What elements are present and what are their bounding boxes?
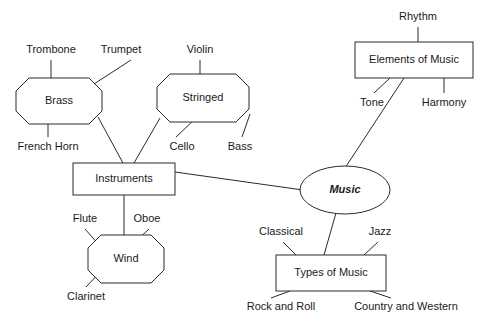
concept-map-diagram: BrassStringedInstrumentsWindMusicElement…: [0, 0, 487, 329]
leaf-label-trombone: Trombone: [26, 43, 76, 55]
node-label-music: Music: [329, 183, 360, 195]
leaf-label-harmony: Harmony: [422, 96, 467, 108]
node-layer: BrassStringedInstrumentsWindMusicElement…: [16, 42, 473, 291]
leaf-label-bass: Bass: [228, 140, 253, 152]
node-instruments[interactable]: Instruments: [73, 163, 175, 195]
leaf-label-cello: Cello: [169, 140, 194, 152]
node-label-types-of-music: Types of Music: [294, 266, 368, 278]
edge-trumpet-brass: [94, 60, 131, 84]
edge-elements-music: [345, 78, 404, 168]
edge-jazz-types: [364, 242, 378, 255]
node-label-instruments: Instruments: [95, 172, 153, 184]
leaf-label-country-and-western: Country and Western: [354, 300, 458, 312]
node-label-elements-of-music: Elements of Music: [369, 53, 459, 65]
edge-classical-types: [283, 242, 296, 255]
leaf-label-rock-and-roll: Rock and Roll: [247, 300, 315, 312]
edge-music-types: [324, 213, 336, 255]
leaf-label-tone: Tone: [360, 96, 384, 108]
node-wind[interactable]: Wind: [88, 235, 164, 283]
edge-tone-elements: [374, 78, 390, 93]
edge-brass-instruments: [98, 117, 123, 163]
edge-bass-stringed: [242, 114, 250, 137]
node-label-brass: Brass: [45, 94, 74, 106]
edge-instruments-music: [175, 172, 303, 190]
node-label-wind: Wind: [113, 252, 138, 264]
leaf-label-flute: Flute: [73, 212, 97, 224]
leaf-label-rhythm: Rhythm: [399, 10, 437, 22]
node-music[interactable]: Music: [300, 166, 390, 214]
edge-types-rockandroll: [271, 291, 290, 298]
edge-stringed-instruments: [134, 118, 160, 163]
node-elements-of-music[interactable]: Elements of Music: [355, 42, 473, 78]
leaf-label-french-horn: French Horn: [17, 140, 78, 152]
node-label-stringed: Stringed: [183, 91, 224, 103]
leaf-label-oboe: Oboe: [134, 212, 161, 224]
leaf-label-clarinet: Clarinet: [67, 290, 105, 302]
leaf-label-violin: Violin: [187, 43, 214, 55]
leaf-label-classical: Classical: [259, 225, 303, 237]
leaf-label-jazz: Jazz: [369, 225, 392, 237]
leaf-label-trumpet: Trumpet: [101, 43, 142, 55]
node-types-of-music[interactable]: Types of Music: [276, 255, 386, 291]
node-brass[interactable]: Brass: [16, 78, 102, 124]
edge-types-countryandwestern: [370, 291, 391, 298]
node-stringed[interactable]: Stringed: [157, 74, 249, 122]
